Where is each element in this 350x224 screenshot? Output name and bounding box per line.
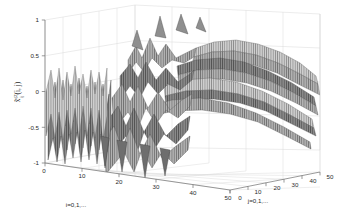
z-tick-label: -1 xyxy=(33,159,39,166)
mesh-surface xyxy=(46,14,320,178)
surface-noisy-band xyxy=(46,66,111,166)
j-axis-ticks: 0 10 20 30 40 50 xyxy=(230,172,334,201)
plot-canvas: 1 0.5 0 -0.5 -1 0 10 20 30 40 50 xyxy=(0,0,350,224)
i-tick-label: 0 xyxy=(42,167,46,174)
j-tick-label: 40 xyxy=(310,177,317,184)
svg-text:x̃(2)ij(i, j): x̃(2)ij(i, j) xyxy=(13,81,24,102)
i-axis-ticks: 0 10 20 30 40 50 xyxy=(42,163,232,201)
i-axis-line xyxy=(45,163,230,190)
z-tick-label: -0.5 xyxy=(28,124,39,131)
figure-3d-surface-plot: 1 0.5 0 -0.5 -1 0 10 20 30 40 50 xyxy=(0,0,350,224)
i-tick-label: 20 xyxy=(116,178,123,185)
z-axis-title-args: (i, j) xyxy=(13,81,22,94)
i-tick-label: 10 xyxy=(79,172,86,179)
z-tick-label: 0 xyxy=(36,88,40,95)
j-tick-label: 0 xyxy=(238,194,242,201)
surface-transition-band xyxy=(104,38,196,174)
i-tick-label: 30 xyxy=(153,183,160,190)
j-tick-label: 10 xyxy=(255,188,262,195)
z-axis-ticks: 1 0.5 0 -0.5 -1 xyxy=(28,16,45,166)
surface-peak-spikes xyxy=(132,14,206,50)
j-tick-label: 20 xyxy=(274,184,281,191)
z-tick-label: 0.5 xyxy=(30,52,39,59)
z-axis-title-subscript: ij xyxy=(19,96,24,99)
j-tick-label: 30 xyxy=(292,181,299,188)
i-tick-label: 40 xyxy=(190,189,197,196)
i-tick-label: 50 xyxy=(225,194,232,201)
j-axis-title: j=0,1,... xyxy=(247,197,269,204)
z-tick-label: 1 xyxy=(36,16,40,23)
i-axis-title: i=0,1,... xyxy=(66,201,87,208)
j-tick-label: 50 xyxy=(327,173,334,180)
z-axis-title: x̃(2)ij(i, j) xyxy=(13,81,24,102)
